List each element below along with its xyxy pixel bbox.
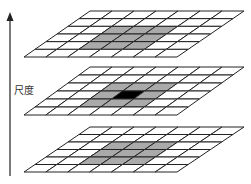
grid-upper-scale xyxy=(24,11,244,57)
grid-current-scale xyxy=(24,67,244,115)
diagram-canvas xyxy=(0,0,251,184)
axis-arrow-icon xyxy=(7,12,14,21)
scale-space-diagram: 尺度 xyxy=(0,0,251,184)
grid-lower-scale xyxy=(24,127,244,172)
axis-label: 尺度 xyxy=(14,82,34,97)
